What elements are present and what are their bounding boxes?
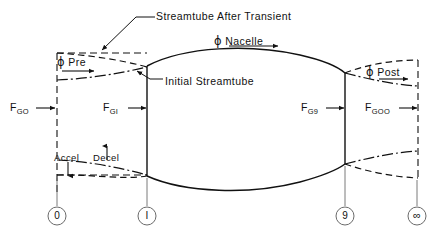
label-phi-post: ϕ Post [366, 65, 400, 79]
label-streamtube-after-transient: Streamtube After Transient [156, 10, 291, 22]
label-force-g9: FG9 [301, 101, 318, 113]
force-g0-base: F [10, 101, 17, 113]
initial-streamtube-right [345, 73, 418, 164]
label-force-g0: FGO [10, 101, 29, 113]
force-g1-subscript: GI [110, 107, 118, 116]
label-force-goo: FGOO [365, 101, 390, 113]
force-g9-base: F [301, 101, 308, 113]
force-goo-subscript: GOO [372, 107, 390, 116]
force-goo-base: F [365, 101, 372, 113]
phi-symbol-nacelle: ϕ [214, 34, 222, 48]
phi-pre-text: Pre [68, 56, 86, 68]
phi-post-text: Post [377, 66, 400, 78]
phi-symbol-pre: ϕ [57, 55, 65, 69]
phi-nacelle-text: Nacelle [225, 35, 263, 47]
label-accel: Accel [54, 152, 79, 163]
label-initial-streamtube: Initial Streamtube [165, 75, 254, 87]
station-label-infinity: ∞ [402, 209, 432, 221]
nacelle-body [147, 48, 345, 190]
force-g0-subscript: GO [17, 107, 29, 116]
station-label-0: 0 [42, 210, 72, 221]
force-g1-base: F [103, 101, 110, 113]
station-markers [48, 207, 426, 225]
label-force-g1: FGI [103, 101, 118, 113]
label-decel: Decel [93, 152, 119, 163]
station-label-1: I [132, 210, 162, 221]
station-label-9: 9 [330, 210, 360, 221]
label-phi-nacelle: ϕ Nacelle [214, 34, 263, 48]
streamtube-diagram: Streamtube After Transient Initial Strea… [0, 0, 437, 235]
force-g9-subscript: G9 [308, 107, 318, 116]
phi-symbol-post: ϕ [366, 65, 374, 79]
station-drop-lines [57, 166, 417, 206]
label-phi-pre: ϕ Pre [57, 55, 86, 69]
